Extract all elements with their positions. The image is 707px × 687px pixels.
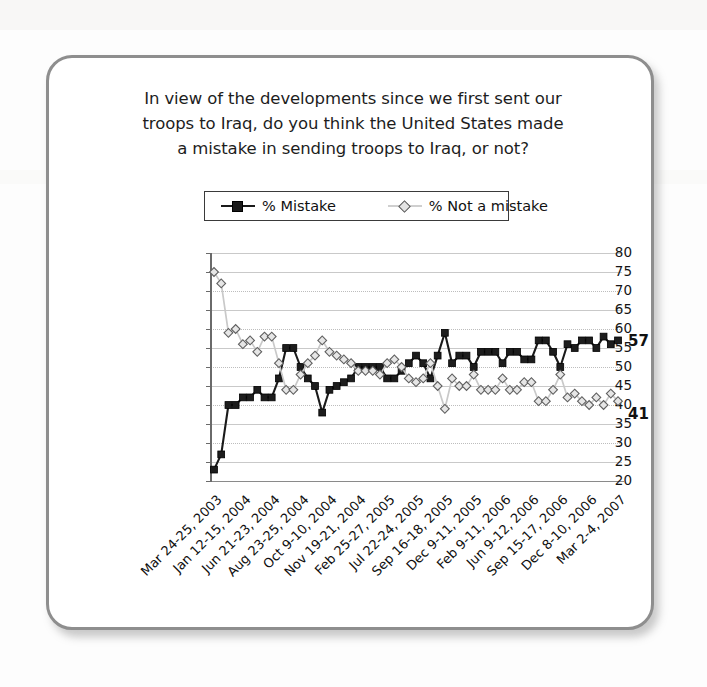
data-point-marker <box>586 337 593 344</box>
data-point-marker <box>469 370 478 379</box>
data-point-marker <box>498 374 507 383</box>
title-line-1: In view of the developments since we fir… <box>83 86 623 111</box>
legend-item-not-mistake: % Not a mistake <box>388 198 548 214</box>
data-point-marker <box>556 370 565 379</box>
data-point-marker <box>413 352 420 359</box>
data-point-marker <box>550 348 557 355</box>
page-background: In view of the developments since we fir… <box>0 0 707 687</box>
data-point-marker <box>326 386 333 393</box>
legend-label-not-mistake: % Not a mistake <box>429 198 548 214</box>
data-point-marker <box>225 402 232 409</box>
data-point-marker <box>384 375 391 382</box>
data-point-marker <box>521 356 528 363</box>
data-point-marker <box>218 451 225 458</box>
legend-item-mistake: % Mistake <box>221 198 336 214</box>
data-point-marker <box>283 345 290 352</box>
data-point-marker <box>499 360 506 367</box>
data-point-marker <box>268 394 275 401</box>
x-axis-labels: Mar 24-25, 2003Jan 12-15, 2004Jun 21-23,… <box>162 486 662 676</box>
data-point-marker <box>542 337 549 344</box>
data-point-marker <box>441 329 448 336</box>
data-point-marker <box>348 375 355 382</box>
data-point-marker <box>607 341 614 348</box>
data-point-marker <box>564 341 571 348</box>
data-point-marker <box>541 397 550 406</box>
y-tick <box>206 481 212 482</box>
data-point-marker <box>254 386 261 393</box>
data-point-marker <box>528 356 535 363</box>
data-point-marker <box>485 348 492 355</box>
data-point-marker <box>319 409 326 416</box>
data-point-marker <box>253 347 262 356</box>
data-point-marker <box>527 378 536 387</box>
data-point-marker <box>462 382 471 391</box>
data-point-marker <box>549 385 558 394</box>
data-point-marker <box>318 336 327 345</box>
open-diamond-marker-icon <box>388 199 422 213</box>
title-line-2: troops to Iraq, do you think the United … <box>83 111 623 136</box>
data-point-marker <box>557 364 564 371</box>
data-point-marker <box>276 375 283 382</box>
end-label-mistake: 57 <box>628 332 649 350</box>
data-point-marker <box>470 364 477 371</box>
data-point-marker <box>433 382 442 391</box>
title-line-3: a mistake in sending troops to Iraq, or … <box>83 136 623 161</box>
data-point-marker <box>593 345 600 352</box>
data-point-marker <box>340 379 347 386</box>
data-point-marker <box>478 348 485 355</box>
x-axis-line <box>210 481 624 482</box>
data-point-marker <box>210 268 219 277</box>
data-point-marker <box>535 337 542 344</box>
data-point-marker <box>290 345 297 352</box>
filled-square-marker-icon <box>221 199 255 213</box>
legend-label-mistake: % Mistake <box>262 198 336 214</box>
chart-card: In view of the developments since we fir… <box>46 55 654 630</box>
plot-area: 80757065605550454035302520 57 41 <box>162 253 632 488</box>
data-point-marker <box>506 348 513 355</box>
scan-band-top <box>0 0 707 30</box>
data-point-marker <box>600 333 607 340</box>
data-point-marker <box>333 383 340 390</box>
data-point-marker <box>491 385 500 394</box>
data-point-marker <box>405 360 412 367</box>
data-point-marker <box>391 375 398 382</box>
data-point-marker <box>232 402 239 409</box>
data-point-marker <box>247 394 254 401</box>
data-point-marker <box>434 352 441 359</box>
data-point-marker <box>211 466 218 473</box>
data-point-marker <box>304 375 311 382</box>
data-point-marker <box>514 348 521 355</box>
data-point-marker <box>492 348 499 355</box>
data-point-marker <box>261 394 268 401</box>
data-series-svg <box>210 253 622 481</box>
data-point-marker <box>239 394 246 401</box>
data-point-marker <box>289 385 298 394</box>
data-point-marker <box>571 345 578 352</box>
data-point-marker <box>615 337 622 344</box>
data-point-marker <box>463 352 470 359</box>
data-point-marker <box>440 404 449 413</box>
data-point-marker <box>449 360 456 367</box>
data-point-marker <box>312 383 319 390</box>
chart-title: In view of the developments since we fir… <box>83 86 623 161</box>
end-label-not-mistake: 41 <box>628 405 649 423</box>
data-point-marker <box>217 279 226 288</box>
data-point-marker <box>456 352 463 359</box>
data-point-marker <box>579 337 586 344</box>
chart-legend: % Mistake % Not a mistake <box>204 191 509 221</box>
data-point-marker <box>267 332 276 341</box>
